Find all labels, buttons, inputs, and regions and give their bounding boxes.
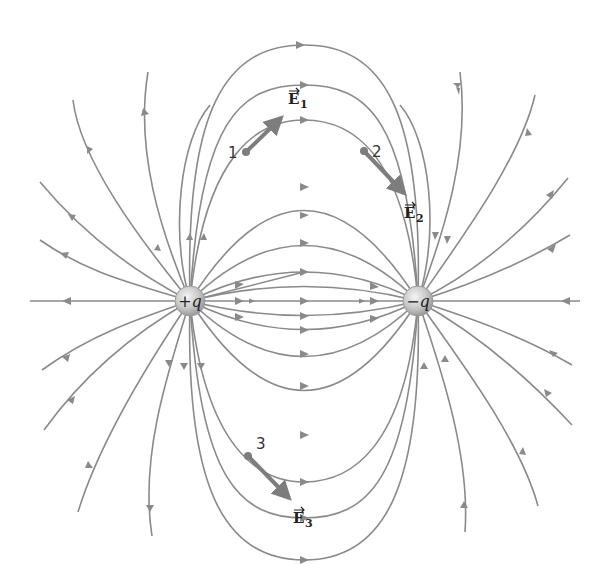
svg-text:+q: +q <box>178 292 202 311</box>
arrowheads-negative <box>420 83 570 508</box>
point-2-dot <box>360 147 368 155</box>
field-line <box>190 85 418 301</box>
field-line <box>418 301 572 425</box>
vector-e3 <box>248 456 289 498</box>
svg-text:−q: −q <box>406 292 430 311</box>
positive-charge: +q <box>175 286 205 316</box>
svg-text:3: 3 <box>305 517 313 530</box>
field-line <box>78 301 190 512</box>
point-1-label: 1 <box>228 144 238 162</box>
point-3-dot <box>244 452 252 460</box>
point-1-dot <box>242 148 250 156</box>
arrowheads-middle <box>235 41 379 564</box>
point-3-label: 3 <box>256 435 266 453</box>
field-line <box>40 240 190 301</box>
vector-e2 <box>364 151 404 193</box>
field-line <box>418 178 568 301</box>
svg-text:1: 1 <box>300 98 308 111</box>
field-line <box>180 105 210 301</box>
e3-label: E 3 <box>293 507 313 530</box>
field-line <box>149 301 190 536</box>
point-2-label: 2 <box>372 143 382 161</box>
negative-charge: −q <box>403 286 433 316</box>
e2-label: E 2 <box>404 202 424 225</box>
field-line <box>190 211 418 302</box>
field-line <box>418 95 535 301</box>
field-line <box>418 72 462 301</box>
field-line <box>418 301 538 506</box>
field-lines <box>30 41 580 564</box>
field-line <box>73 100 190 301</box>
field-vectors <box>242 118 404 498</box>
field-line <box>190 301 418 518</box>
svg-text:2: 2 <box>416 212 424 225</box>
vector-e1 <box>246 118 281 152</box>
field-line <box>44 301 190 430</box>
e1-label: E 1 <box>288 88 308 111</box>
dipole-field-diagram: 1 2 3 E 1 E 2 E 3 +q −q <box>0 0 607 565</box>
